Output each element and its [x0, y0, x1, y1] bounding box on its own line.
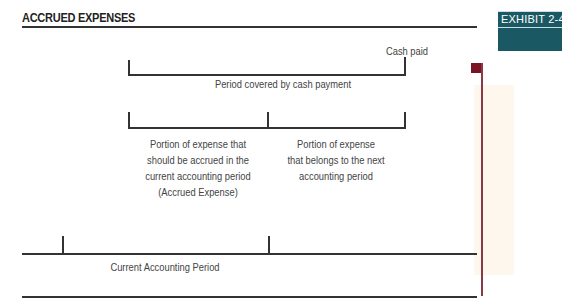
bottom-rule: [22, 296, 477, 298]
title-underline: [22, 26, 477, 28]
cash-paid-label: Cash paid: [377, 43, 437, 59]
split-bracket-mid: [267, 112, 269, 128]
margin-panel: [474, 85, 514, 275]
current-period-caption: Current Accounting Period: [97, 259, 233, 275]
timeline-tick-end: [268, 236, 270, 254]
period-covered-caption: Period covered by cash payment: [185, 76, 381, 92]
timeline-axis: [22, 253, 477, 255]
timeline-tick-start: [62, 236, 64, 254]
exhibit-title: ACCRUED EXPENSES: [22, 11, 135, 25]
caption-line: Portion of expense that: [139, 136, 258, 152]
exhibit-rule: [498, 27, 562, 28]
split-bracket-base: [128, 127, 406, 129]
split-bracket-right: [404, 112, 406, 128]
top-bracket-left: [128, 60, 130, 75]
caption-line: should be accrued in the: [139, 152, 258, 168]
caption-line: Portion of expense: [277, 136, 396, 152]
caption-line: that belongs to the next: [277, 152, 396, 168]
split-bracket-left: [128, 112, 130, 128]
caption-line: current accounting period: [139, 168, 258, 184]
top-bracket-right: [404, 57, 406, 75]
exhibit-top-rule: [498, 11, 562, 12]
margin-rule: [481, 63, 483, 296]
caption-line: accounting period: [277, 168, 396, 184]
exhibit-label: EXHIBIT 2-4: [501, 13, 562, 25]
exhibit-badge: EXHIBIT 2-4: [498, 11, 562, 51]
caption-line: (Accrued Expense): [139, 184, 258, 200]
